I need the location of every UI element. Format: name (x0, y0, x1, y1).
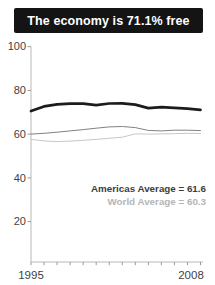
y-tick-label: 80 (14, 84, 26, 96)
economic-freedom-chart-card: 2040608010019952008 The economy is 71.1%… (0, 0, 215, 285)
legend-world-average: World Average = 60.3 (91, 195, 206, 208)
y-tick-label: 20 (14, 215, 26, 227)
chart-legend: Americas Average = 61.6 World Average = … (91, 182, 206, 208)
y-tick-label: 40 (14, 172, 26, 184)
series-line-americas-average (31, 127, 201, 135)
x-label-start: 1995 (18, 269, 44, 281)
series-line-economic-freedom-score (31, 103, 201, 111)
freedom-trend-line-chart: 2040608010019952008 (0, 0, 215, 285)
legend-americas-average: Americas Average = 61.6 (91, 182, 206, 195)
y-tick-label: 60 (14, 128, 26, 140)
chart-title-banner: The economy is 71.1% free (14, 8, 203, 33)
y-tick-label: 100 (8, 40, 26, 52)
chart-title: The economy is 71.1% free (27, 14, 189, 28)
series-line-world-average (31, 133, 201, 141)
x-label-end: 2008 (178, 269, 204, 281)
